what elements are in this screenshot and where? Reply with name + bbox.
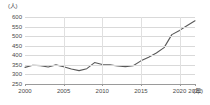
- y-axis-tick-label: 600: [12, 14, 22, 20]
- gridline-vertical: [102, 17, 103, 84]
- gridline-horizontal: [25, 46, 195, 47]
- gridline-vertical: [180, 17, 181, 84]
- x-axis-tick-mark: [180, 84, 181, 86]
- gridline-horizontal: [25, 36, 195, 37]
- x-axis-tick-mark: [25, 84, 26, 86]
- y-axis-tick-label: 550: [12, 24, 22, 30]
- gridline-horizontal: [25, 65, 195, 66]
- y-axis-tick-label: 450: [12, 43, 22, 49]
- x-axis-tick-label: 2020: [173, 88, 186, 94]
- x-axis-tick-label: 2022: [188, 88, 201, 94]
- gridline-horizontal: [25, 17, 195, 18]
- line-chart: (人) 600550500450400350300250 (年) 2000200…: [0, 0, 210, 105]
- x-axis-tick-label: 2005: [57, 88, 70, 94]
- y-axis-tick-label: 400: [12, 52, 22, 58]
- x-axis-tick-label: 2015: [134, 88, 147, 94]
- gridline-vertical: [64, 17, 65, 84]
- plot-area: [25, 17, 195, 84]
- x-axis-tick-label: 2000: [18, 88, 31, 94]
- gridline-horizontal: [25, 27, 195, 28]
- x-axis-tick-mark: [195, 84, 196, 86]
- x-axis-tick-mark: [141, 84, 142, 86]
- gridline-horizontal: [25, 55, 195, 56]
- y-axis-tick-label: 300: [12, 71, 22, 77]
- x-axis-tick-label: 2010: [96, 88, 109, 94]
- y-axis-tick-label: 250: [12, 81, 22, 87]
- y-axis-tick-label: 350: [12, 62, 22, 68]
- gridline-vertical: [141, 17, 142, 84]
- gridline-horizontal: [25, 74, 195, 75]
- x-axis-tick-mark: [64, 84, 65, 86]
- x-axis-line: [25, 84, 195, 85]
- y-axis-tick-label: 500: [12, 33, 22, 39]
- x-axis-tick-mark: [102, 84, 103, 86]
